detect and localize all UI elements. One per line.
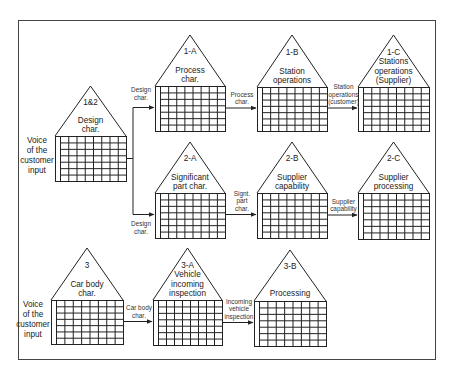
voice-of-customer-label: of the — [23, 310, 44, 319]
house-title-line: operations — [273, 76, 311, 85]
house-title-line: Stations — [379, 57, 409, 66]
house-2-b: 2-BSuppliercapability — [257, 142, 328, 239]
house-code: 2-A — [184, 154, 197, 163]
house-code: 3 — [85, 261, 90, 270]
house-code: 1-A — [184, 47, 197, 56]
qfd-diagram: 1&2Designchar.Voiceof thecustomerinput1-… — [0, 0, 454, 377]
connector-label: Process — [230, 91, 253, 98]
house-code: 1&2 — [83, 98, 98, 107]
house-code: 1-C — [387, 48, 400, 57]
house-title-line: Station — [279, 67, 305, 76]
house-title-line: Processing — [270, 289, 311, 298]
house-title-line: char. — [78, 289, 96, 298]
house-code: 2-B — [286, 154, 299, 163]
connector-label: char. — [235, 98, 249, 105]
connector-h2a-to-h2b: Signt.partchar. — [226, 190, 257, 215]
house-3: 3Car bodychar.Voiceof thecustomerinput — [16, 248, 123, 345]
house-title-line: Car body — [70, 280, 104, 289]
connector-label: (customer) — [328, 98, 359, 106]
connector-label: capability — [330, 205, 357, 213]
connector-h3a-to-h3b: Incomingvehicleinspection — [223, 298, 254, 323]
house-title-line: processing — [374, 182, 414, 191]
house-code: 3-A — [181, 261, 194, 270]
voice-of-customer-label: Voice — [23, 300, 43, 309]
house-1-c: 1-CStationsoperations(Supplier) — [358, 35, 430, 132]
connector-h12-to-h1a: Designchar. — [127, 86, 155, 159]
connector-label: inspection — [225, 313, 254, 321]
voice-of-customer-label: Voice — [27, 136, 47, 145]
house-1-2: 1&2Designchar.Voiceof thecustomerinput — [20, 86, 126, 182]
house-title-line: Significant — [171, 173, 210, 182]
connector-h12-to-h2a: Designchar. — [127, 159, 155, 235]
house-title-line: char. — [181, 75, 199, 84]
voice-of-customer-label: of the — [27, 146, 48, 155]
house-title-line: Vehicle — [174, 270, 201, 279]
voice-of-customer-label: input — [24, 330, 42, 339]
connector-label: char. — [235, 205, 249, 212]
connector-h1b-to-h1c: Stationoperations(customer) — [328, 83, 359, 108]
house-code: 2-C — [387, 154, 400, 163]
connector-arrow — [127, 159, 155, 215]
connector-label: Station — [334, 83, 354, 90]
house-code: 3-B — [284, 262, 297, 271]
house-title-line: capability — [275, 182, 310, 191]
house-title-line: char. — [82, 125, 100, 134]
voice-of-customer-label: customer — [16, 320, 50, 329]
house-title-line: Design — [78, 116, 104, 125]
connector-label: vehicle — [229, 305, 249, 312]
connector-h2b-to-h2c: Suppliercapability — [328, 198, 358, 216]
connector-label: char. — [134, 228, 148, 235]
house-2-a: 2-ASignificantpart char. — [155, 142, 226, 239]
connector-arrow — [127, 108, 155, 159]
house-1-b: 1-BStationoperations — [257, 35, 328, 132]
voice-of-customer-label: input — [28, 166, 46, 175]
connector-h3-to-h3a: Car bodychar. — [124, 304, 153, 322]
house-title-line: part char. — [173, 182, 207, 191]
house-title-line: inspection — [169, 289, 206, 298]
house-3-a: 3-AVehicleincominginspection — [153, 248, 223, 346]
house-title-line: incoming — [171, 280, 204, 289]
house-title-line: operations — [374, 67, 412, 76]
voice-of-customer-label: customer — [20, 156, 54, 165]
house-code: 1-B — [286, 48, 299, 57]
connector-label: char. — [134, 94, 148, 101]
connector-h1a-to-h1b: Processchar. — [226, 91, 257, 109]
house-title-line: (Supplier) — [376, 76, 412, 85]
house-2-c: 2-CSupplierprocessing — [358, 142, 430, 240]
house-title-line: Supplier — [277, 173, 307, 182]
house-3-b: 3-BProcessing — [254, 250, 327, 347]
house-title-line: Process — [175, 66, 205, 75]
house-1-a: 1-AProcesschar. — [155, 35, 226, 132]
connector-label: char. — [132, 312, 146, 319]
house-title-line: Supplier — [378, 173, 408, 182]
